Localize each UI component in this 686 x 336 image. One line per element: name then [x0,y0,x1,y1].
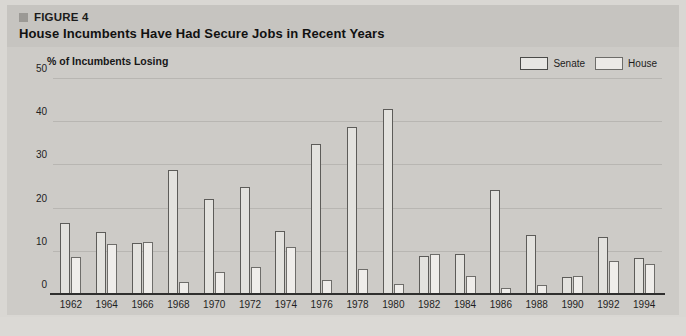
bar-group-1978: 1978 [340,79,376,295]
y-axis-title: % of Incumbents Losing [47,55,168,67]
x-tick-1980: 1980 [382,299,404,310]
y-tick-30: 30 [36,149,47,160]
bar-house-1994 [645,264,655,295]
bar-house-1978 [358,269,368,295]
x-tick-1984: 1984 [454,299,476,310]
bar-senate-1988 [526,235,536,295]
legend-label-house: House [628,58,657,69]
y-tick-50: 50 [36,63,47,74]
bar-house-1962 [71,257,81,295]
bar-senate-1976 [311,144,321,295]
bar-group-1990: 1990 [555,79,591,295]
x-axis-line [50,293,665,295]
plot-area: 01020304050 1962196419661968197019721974… [53,79,662,295]
bar-group-1984: 1984 [447,79,483,295]
bar-senate-1962 [60,223,70,295]
bar-senate-1968 [168,170,178,295]
bar-senate-1978 [347,127,357,295]
x-tick-1968: 1968 [167,299,189,310]
figure-title: House Incumbents Have Had Secure Jobs in… [19,26,385,41]
legend-item-house: House [595,57,657,70]
x-tick-1972: 1972 [239,299,261,310]
bar-group-1972: 1972 [232,79,268,295]
x-tick-1962: 1962 [60,299,82,310]
bar-group-1994: 1994 [626,79,662,295]
bar-senate-1984 [455,254,465,295]
bar-house-1974 [286,247,296,295]
bar-senate-1970 [204,199,214,295]
y-tick-0: 0 [41,279,47,290]
figure-number: FIGURE 4 [34,11,89,23]
bar-senate-1980 [383,109,393,295]
figure-header: FIGURE 4 House Incumbents Have Had Secur… [7,5,679,47]
bar-group-1980: 1980 [375,79,411,295]
bar-senate-1994 [634,258,644,295]
square-bullet-icon [19,13,28,22]
bar-senate-1966 [132,243,142,295]
x-tick-1978: 1978 [346,299,368,310]
bar-group-1964: 1964 [89,79,125,295]
bar-house-1966 [143,242,153,295]
bar-senate-1972 [240,187,250,295]
bar-senate-1964 [96,232,106,295]
x-tick-1974: 1974 [275,299,297,310]
bar-house-1964 [107,244,117,295]
bar-senate-1986 [490,190,500,295]
chart-legend: Senate House [520,57,657,70]
bar-senate-1992 [598,237,608,295]
x-tick-1994: 1994 [633,299,655,310]
bar-group-1962: 1962 [53,79,89,295]
x-tick-1976: 1976 [311,299,333,310]
bar-group-1976: 1976 [304,79,340,295]
x-tick-1986: 1986 [490,299,512,310]
x-tick-1970: 1970 [203,299,225,310]
bar-group-1974: 1974 [268,79,304,295]
bar-house-1990 [573,276,583,295]
x-tick-1964: 1964 [96,299,118,310]
y-tick-20: 20 [36,192,47,203]
bar-group-1966: 1966 [125,79,161,295]
page-footer [0,317,686,336]
bar-senate-1974 [275,231,285,295]
bar-senate-1982 [419,256,429,295]
bar-group-1992: 1992 [590,79,626,295]
y-tick-10: 10 [36,235,47,246]
bar-house-1982 [430,254,440,295]
x-tick-1966: 1966 [131,299,153,310]
bar-group-1986: 1986 [483,79,519,295]
bar-house-1972 [251,267,261,295]
bar-group-1968: 1968 [160,79,196,295]
figure-label-row: FIGURE 4 [19,11,89,23]
bar-group-1988: 1988 [519,79,555,295]
chart-panel: % of Incumbents Losing Senate House 0102… [7,47,679,315]
legend-swatch-senate [520,57,548,70]
y-tick-40: 40 [36,106,47,117]
bar-groups: 1962196419661968197019721974197619781980… [53,79,662,295]
x-tick-1988: 1988 [526,299,548,310]
legend-swatch-house [595,57,623,70]
figure-page: FIGURE 4 House Incumbents Have Had Secur… [0,0,686,336]
legend-item-senate: Senate [520,57,585,70]
bar-house-1984 [466,276,476,295]
bar-house-1992 [609,261,619,295]
legend-label-senate: Senate [553,58,585,69]
x-tick-1982: 1982 [418,299,440,310]
x-tick-1990: 1990 [561,299,583,310]
x-tick-1992: 1992 [597,299,619,310]
bar-senate-1990 [562,277,572,295]
bar-house-1970 [215,272,225,295]
bar-group-1982: 1982 [411,79,447,295]
bar-group-1970: 1970 [196,79,232,295]
